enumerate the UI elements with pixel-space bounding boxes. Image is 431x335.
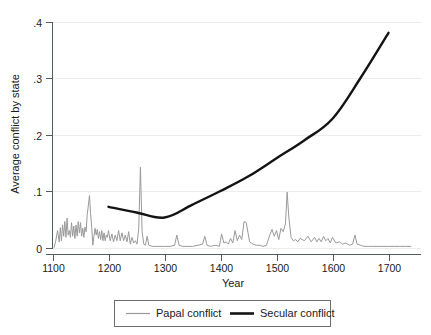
x-tick-label: 1200 [98, 262, 122, 274]
y-tick-label: 0 [36, 243, 42, 255]
y-tick-label: .2 [33, 130, 42, 142]
x-tick-label: 1300 [154, 262, 178, 274]
x-tick-label: 1500 [266, 262, 290, 274]
y-tick-label: .4 [33, 17, 42, 29]
y-axis-title: Average conflict by state [9, 74, 21, 194]
x-tick-label: 1400 [210, 262, 234, 274]
x-tick-label: 1600 [322, 262, 346, 274]
chart-legend: Papal conflict Secular conflict [115, 301, 335, 327]
conflict-line-chart: 0.1.2.3.4 1100120013001400150016001700 Y… [0, 0, 431, 335]
chart-figure: 0.1.2.3.4 1100120013001400150016001700 Y… [0, 0, 431, 335]
y-tick-label: .3 [33, 73, 42, 85]
x-tick-label: 1100 [42, 262, 65, 274]
x-axis-title: Year [222, 277, 245, 289]
legend-label-secular-conflict: Secular conflict [260, 307, 335, 319]
legend-label-papal-conflict: Papal conflict [156, 307, 221, 319]
y-tick-label: .1 [33, 186, 42, 198]
chart-background [0, 0, 431, 335]
x-tick-label: 1700 [378, 262, 402, 274]
